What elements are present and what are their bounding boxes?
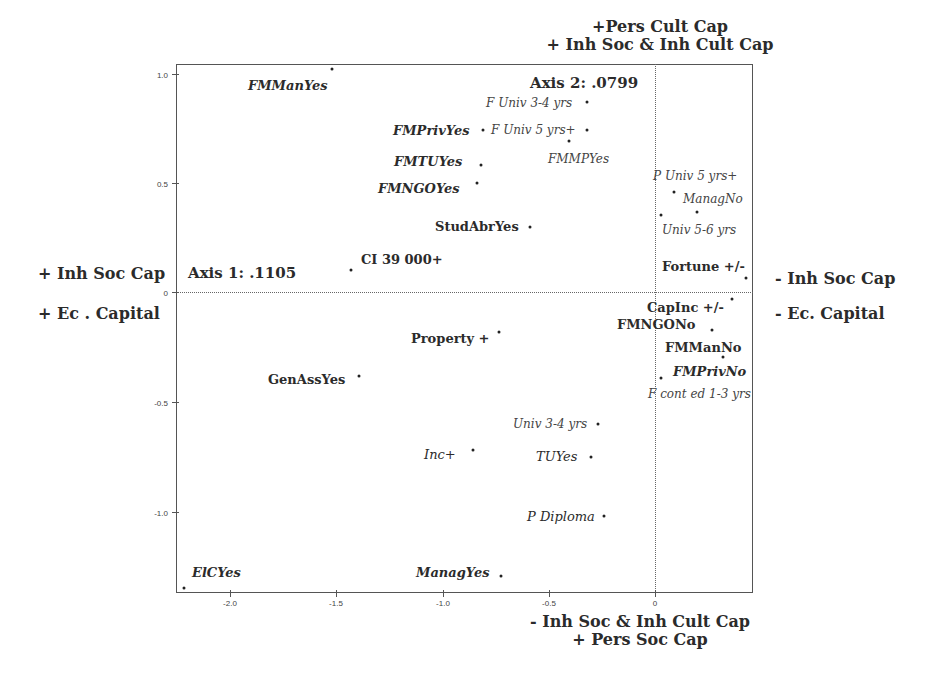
left-pole-label-2: + Ec . Capital bbox=[38, 305, 160, 323]
bottom-pole-label: - Inh Soc & Inh Cult Cap + Pers Soc Cap bbox=[520, 613, 760, 650]
point-label: TUYes bbox=[536, 450, 577, 463]
y-tick bbox=[172, 292, 179, 293]
x-tick-label: -1.5 bbox=[329, 599, 343, 608]
x-tick-label: -1.0 bbox=[436, 599, 450, 608]
data-point bbox=[722, 356, 725, 359]
top-pole-label: +Pers Cult Cap + Inh Soc & Inh Cult Cap bbox=[530, 18, 790, 55]
data-point bbox=[568, 140, 571, 143]
data-point bbox=[350, 269, 353, 272]
right-pole-label-1: - Inh Soc Cap bbox=[775, 270, 895, 288]
data-point bbox=[358, 375, 361, 378]
bottom-pole-line-2: + Pers Soc Cap bbox=[520, 631, 760, 649]
data-point bbox=[482, 129, 485, 132]
x-tick-label: 0 bbox=[653, 599, 657, 608]
point-label: Univ 5-6 yrs bbox=[662, 224, 736, 236]
x-tick-label: -2.0 bbox=[223, 599, 237, 608]
y-tick-label: 0.5 bbox=[144, 180, 168, 189]
point-label: FMManYes bbox=[248, 79, 328, 92]
point-label: Fortune +/- bbox=[662, 260, 745, 273]
data-point bbox=[711, 329, 714, 332]
point-label: ManagYes bbox=[416, 566, 490, 579]
data-point bbox=[696, 211, 699, 214]
data-point bbox=[673, 191, 676, 194]
point-label: Inc+ bbox=[424, 448, 456, 461]
point-label: ElCYes bbox=[192, 566, 241, 579]
y-tick-label: -0.5 bbox=[144, 399, 168, 408]
point-label: FMPrivNo bbox=[673, 365, 746, 378]
point-label: CI 39 000+ bbox=[361, 253, 443, 266]
data-point bbox=[603, 515, 606, 518]
data-point bbox=[480, 164, 483, 167]
x-tick bbox=[443, 590, 444, 597]
data-point bbox=[586, 129, 589, 132]
axis-1-title: Axis 1: .1105 bbox=[188, 264, 296, 282]
data-point bbox=[529, 226, 532, 229]
point-label: F Univ 5 yrs+ bbox=[491, 124, 576, 136]
point-label: StudAbrYes bbox=[435, 220, 519, 233]
point-label: P Diploma bbox=[527, 510, 595, 523]
x-tick bbox=[230, 590, 231, 597]
y-tick bbox=[172, 402, 179, 403]
data-point bbox=[660, 377, 663, 380]
x-tick-label: -0.5 bbox=[542, 599, 556, 608]
point-label: FMMPYes bbox=[548, 153, 609, 165]
y-tick-label: 1.0 bbox=[144, 71, 168, 80]
y-tick bbox=[172, 512, 179, 513]
point-label: GenAssYes bbox=[268, 373, 345, 386]
axis-2-title: Axis 2: .0799 bbox=[530, 74, 638, 92]
point-label: FMPrivYes bbox=[393, 124, 469, 137]
data-point bbox=[731, 298, 734, 301]
point-label: F Univ 3-4 yrs bbox=[486, 97, 572, 109]
top-pole-line-1: +Pers Cult Cap bbox=[530, 18, 790, 36]
y-tick-label: -1.0 bbox=[144, 509, 168, 518]
data-point bbox=[500, 575, 503, 578]
point-label: F cont ed 1-3 yrs bbox=[648, 388, 751, 400]
data-point bbox=[498, 331, 501, 334]
correspondence-analysis-plot: +Pers Cult Cap + Inh Soc & Inh Cult Cap … bbox=[0, 0, 927, 682]
data-point bbox=[660, 214, 663, 217]
data-point bbox=[183, 587, 186, 590]
bottom-pole-line-1: - Inh Soc & Inh Cult Cap bbox=[520, 613, 760, 631]
top-pole-line-2: + Inh Soc & Inh Cult Cap bbox=[530, 36, 790, 54]
data-point bbox=[590, 456, 593, 459]
point-label: FMTUYes bbox=[394, 155, 462, 168]
point-label: Property + bbox=[411, 332, 489, 345]
y-tick bbox=[172, 74, 179, 75]
point-label: CapInc +/- bbox=[647, 301, 724, 314]
point-label: FMNGOYes bbox=[378, 182, 460, 195]
point-label: P Univ 5 yrs+ bbox=[653, 170, 737, 182]
right-pole-label-2: - Ec. Capital bbox=[775, 305, 885, 323]
x-tick bbox=[655, 590, 656, 597]
point-label: FMNGONo bbox=[617, 318, 695, 331]
horizontal-zero-line bbox=[176, 292, 753, 293]
data-point bbox=[597, 423, 600, 426]
left-pole-label-1: + Inh Soc Cap bbox=[38, 265, 165, 283]
data-point bbox=[586, 101, 589, 104]
point-label: Univ 3-4 yrs bbox=[513, 418, 587, 430]
point-label: FMManNo bbox=[665, 341, 741, 354]
data-point bbox=[476, 182, 479, 185]
x-tick bbox=[336, 590, 337, 597]
data-point bbox=[745, 277, 748, 280]
y-tick-label: 0 bbox=[144, 289, 168, 298]
x-tick bbox=[549, 590, 550, 597]
point-label: ManagNo bbox=[683, 193, 743, 205]
data-point bbox=[331, 68, 334, 71]
data-point bbox=[472, 449, 475, 452]
y-tick bbox=[172, 183, 179, 184]
